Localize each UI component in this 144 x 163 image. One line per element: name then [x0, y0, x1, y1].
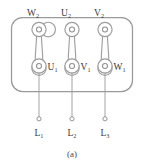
terminal-top-label-2: U2	[61, 8, 71, 19]
link-assembly-3[interactable]	[98, 22, 112, 121]
supply-label-2: L2	[68, 128, 77, 139]
terminal-top-dot-2[interactable]	[70, 27, 75, 32]
supply-terminal-dot-3[interactable]	[103, 117, 107, 121]
link-assembly-2[interactable]	[65, 22, 79, 121]
supply-terminal-dot-1[interactable]	[37, 117, 41, 121]
link-assembly-1[interactable]	[32, 22, 56, 121]
terminal-bottom-label-1: U1	[48, 62, 58, 73]
terminal-bottom-label-2: V1	[81, 62, 91, 73]
terminal-block-diagram: W2 U2 V2 U1 V1 W1 L1 L2 L3 (a)	[0, 0, 144, 163]
figure-container: W2 U2 V2 U1 V1 W1 L1 L2 L3 (a)	[0, 0, 144, 163]
terminal-top-dot-1[interactable]	[37, 27, 42, 32]
terminal-top-dot-3[interactable]	[103, 27, 108, 32]
terminal-bottom-label-3: W1	[114, 62, 126, 73]
supply-label-1: L1	[35, 128, 44, 139]
terminal-bottom-dot-3[interactable]	[103, 64, 108, 69]
terminal-bottom-dot-2[interactable]	[70, 64, 75, 69]
terminal-bottom-dot-1[interactable]	[37, 64, 42, 69]
terminal-top-label-3: V2	[94, 8, 104, 19]
supply-label-3: L3	[101, 128, 110, 139]
terminal-top-label-1: W2	[27, 8, 39, 19]
figure-caption: (a)	[67, 149, 77, 159]
supply-terminal-dot-2[interactable]	[70, 117, 74, 121]
